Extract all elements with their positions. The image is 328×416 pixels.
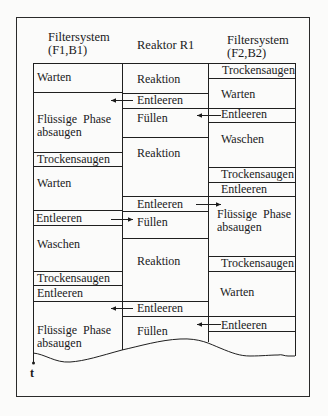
diagram-lines	[0, 0, 328, 416]
time-axis-label: t	[30, 366, 34, 381]
time-axis-end-dot	[32, 362, 35, 365]
wavy-cutoff-line	[33, 339, 295, 362]
